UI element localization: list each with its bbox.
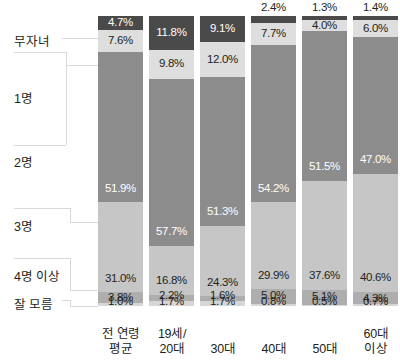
bar-segment[interactable]: 51.3% — [200, 77, 245, 226]
segment-value-label: 57.7% — [149, 226, 194, 238]
bar-segment[interactable]: 37.6% — [302, 181, 347, 290]
bar-segment[interactable]: 16.8% — [149, 246, 194, 295]
segment-value-label: 1.3% — [302, 1, 347, 13]
bar-group: 11.8%9.8%57.7%16.8%2.2%1.7% — [149, 16, 194, 306]
xtick-line1: 19세/ — [139, 327, 205, 343]
segment-value-label: 51.9% — [98, 183, 143, 195]
bar-segment[interactable]: 4.7% — [98, 16, 143, 30]
bar-group: 2.4%7.7%54.2%29.9%5.0%0.8% — [251, 16, 296, 306]
segment-value-label: 0.8% — [251, 295, 296, 307]
segment-value-label: 9.1% — [200, 23, 245, 35]
bar-segment[interactable]: 57.7% — [149, 79, 194, 246]
segment-value-label: 31.0% — [98, 273, 143, 285]
bar-segment[interactable]: 1.0% — [98, 303, 143, 306]
bar-segment[interactable]: 12.0% — [200, 42, 245, 77]
bar-stack-0[interactable]: 4.7%7.6%51.9%31.0%3.8%1.0% — [98, 16, 143, 306]
segment-value-label: 51.3% — [200, 206, 245, 218]
stacked-bar-chart: 무자녀 1명 2명 3명 4명 이상 잘 모름 4 — [0, 0, 400, 364]
bar-segment[interactable]: 31.0% — [98, 202, 143, 292]
segment-value-label: 7.6% — [98, 35, 143, 47]
segment-value-label: 4.7% — [98, 17, 143, 29]
segment-value-label: 29.9% — [251, 270, 296, 282]
bar-segment[interactable]: 7.7% — [251, 23, 296, 45]
segment-value-label: 51.5% — [302, 161, 347, 173]
segment-value-label: 1.4% — [353, 1, 398, 13]
bar-segment[interactable]: 40.6% — [353, 174, 398, 292]
bar-group: 4.7%7.6%51.9%31.0%3.8%1.0% — [98, 16, 143, 306]
segment-value-label: 40.6% — [353, 272, 398, 284]
bar-segment[interactable]: 1.7% — [149, 301, 194, 306]
segment-value-label: 9.8% — [149, 59, 194, 71]
segment-value-label: 0.7% — [353, 295, 398, 307]
bar-segment[interactable]: 0.8% — [251, 304, 296, 306]
segment-value-label: 47.0% — [353, 154, 398, 166]
xtick-5: 60대 이상 — [343, 327, 400, 358]
bar-stack-4[interactable]: 1.3%4.0%51.5%37.6%5.1%0.5% — [302, 16, 347, 306]
bar-segment[interactable]: 54.2% — [251, 45, 296, 202]
segment-value-label: 1.7% — [200, 295, 245, 307]
bar-segment[interactable]: 0.5% — [302, 305, 347, 306]
segment-value-label: 1.7% — [149, 295, 194, 307]
bar-group: 1.3%4.0%51.5%37.6%5.1%0.5% — [302, 16, 347, 306]
bar-segment[interactable]: 9.1% — [200, 16, 245, 42]
segment-value-label: 6.0% — [353, 23, 398, 35]
segment-value-label: 1.0% — [98, 295, 143, 307]
bar-segment[interactable]: 4.0% — [302, 20, 347, 32]
segment-value-label: 37.6% — [302, 270, 347, 282]
segment-value-label: 12.0% — [200, 54, 245, 66]
bar-segment[interactable]: 47.0% — [353, 37, 398, 173]
bar-segment[interactable]: 11.8% — [149, 16, 194, 50]
segment-value-label: 7.7% — [251, 28, 296, 40]
segment-value-label: 16.8% — [149, 275, 194, 287]
bar-segment[interactable]: 29.9% — [251, 202, 296, 289]
bar-stack-5[interactable]: 1.4%6.0%47.0%40.6%4.3%0.7% — [353, 16, 398, 306]
segment-value-label: 2.4% — [251, 1, 296, 13]
plot-area: 4.7%7.6%51.9%31.0%3.8%1.0%11.8%9.8%57.7%… — [0, 0, 400, 364]
bar-segment[interactable]: 0.7% — [353, 304, 398, 306]
segment-value-label: 54.2% — [251, 183, 296, 195]
bar-stack-1[interactable]: 11.8%9.8%57.7%16.8%2.2%1.7% — [149, 16, 194, 306]
bar-segment[interactable]: 2.4% — [251, 16, 296, 23]
segment-value-label: 24.3% — [200, 277, 245, 289]
bar-segment[interactable]: 24.3% — [200, 226, 245, 296]
bar-stack-2[interactable]: 9.1%12.0%51.3%24.3%1.6%1.7% — [200, 16, 245, 306]
bar-group: 1.4%6.0%47.0%40.6%4.3%0.7% — [353, 16, 398, 306]
segment-value-label: 4.0% — [302, 20, 347, 32]
segment-value-label: 11.8% — [149, 27, 194, 39]
xtick-line2: 이상 — [343, 342, 400, 358]
xtick-line1: 60대 — [343, 327, 400, 343]
bar-segment[interactable]: 51.9% — [98, 52, 143, 203]
bar-segment[interactable]: 9.8% — [149, 50, 194, 78]
bar-segment[interactable]: 1.7% — [200, 301, 245, 306]
segment-value-label: 0.5% — [302, 295, 347, 307]
bar-stack-3[interactable]: 2.4%7.7%54.2%29.9%5.0%0.8% — [251, 16, 296, 306]
bar-segment[interactable]: 7.6% — [98, 30, 143, 52]
bar-segment[interactable]: 51.5% — [302, 31, 347, 180]
bar-group: 9.1%12.0%51.3%24.3%1.6%1.7% — [200, 16, 245, 306]
bar-segment[interactable]: 6.0% — [353, 20, 398, 37]
